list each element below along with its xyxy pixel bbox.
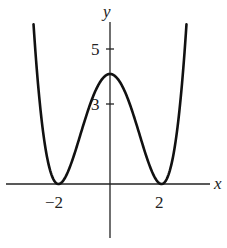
y-axis-label: y [101, 2, 111, 21]
x-axis-label: x [213, 174, 222, 193]
x-tick-label-2: 2 [155, 193, 164, 212]
x-tick-label-neg2: −2 [45, 193, 63, 212]
function-graph: y x 5 3 −2 2 [0, 0, 227, 248]
y-tick-label-3: 3 [91, 95, 100, 114]
y-tick-label-5: 5 [91, 40, 100, 59]
